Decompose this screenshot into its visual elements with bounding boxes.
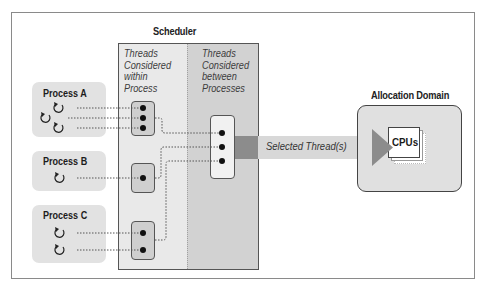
circular-arrow-icon: [41, 112, 50, 122]
filled-dot-icon: [140, 230, 146, 236]
thread-icons: [41, 102, 64, 254]
circular-arrow-icon: [55, 172, 64, 182]
filled-dot-icon: [140, 175, 146, 181]
circular-arrow-icon: [54, 122, 63, 132]
filled-dot-icon: [140, 105, 146, 111]
circular-arrow-icon: [54, 102, 63, 112]
filled-dot-icon: [140, 247, 146, 253]
thread-slot-dots: [140, 105, 225, 253]
filled-dot-icon: [219, 158, 225, 164]
filled-dot-icon: [219, 130, 225, 136]
circular-arrow-icon: [55, 244, 64, 254]
connectors-overlay: [0, 0, 488, 289]
filled-dot-icon: [140, 115, 146, 121]
filled-dot-icon: [140, 125, 146, 131]
filled-dot-icon: [219, 144, 225, 150]
circular-arrow-icon: [55, 227, 64, 237]
